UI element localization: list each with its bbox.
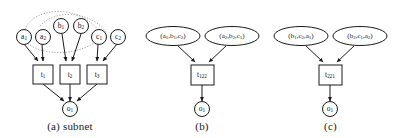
transition-node-t1[interactable]: t1: [33, 65, 53, 84]
transition-node-t221[interactable]: t221: [319, 65, 342, 85]
input-node-b2-sub: 2: [82, 24, 85, 30]
svg-text:(a1,b1,c2): (a1,b1,c2): [160, 32, 186, 40]
output-node-o1[interactable]: o1: [195, 102, 210, 117]
input-node-c1-sub: 1: [99, 35, 102, 41]
tuple-node-c-2[interactable]: (b2,c1,a2): [333, 27, 387, 46]
output-node-o1-sub: 1: [203, 107, 206, 113]
transition-node-t1-sub: 1: [43, 73, 46, 79]
output-node-o1-sub: 1: [71, 107, 74, 113]
input-node-c2[interactable]: c2: [111, 30, 126, 45]
input-node-a1-sub: 1: [24, 35, 27, 41]
panel-a-caption: (a) subnet: [0, 120, 140, 132]
input-node-a1[interactable]: a1: [17, 30, 32, 45]
transition-node-t221-sub: 221: [327, 73, 335, 79]
panel-c: (b1,c2,a1) (b2,c1,a2) t221 o1 (c): [266, 0, 395, 138]
panel-a-graph: a1 a2 b1 b2 c1 c2: [0, 0, 140, 138]
tuple-node-c-1[interactable]: (b1,c2,a1): [274, 27, 328, 46]
input-node-a2[interactable]: a2: [36, 30, 51, 45]
transition-node-t122-sub: 122: [199, 73, 207, 79]
tuple-node-b-1[interactable]: (a1,b1,c2): [146, 27, 200, 46]
svg-text:(b1,c2,a1): (b1,c2,a1): [288, 32, 314, 40]
panel-c-graph: (b1,c2,a1) (b2,c1,a2) t221 o1: [266, 0, 395, 138]
output-node-o1-sub: 1: [331, 107, 334, 113]
panel-b-graph: (a1,b1,c2) (a2,b2,c1) t122 o1: [138, 0, 266, 138]
svg-text:(b2,c1,a2): (b2,c1,a2): [347, 32, 373, 40]
panel-b: (a1,b1,c2) (a2,b2,c1) t122 o1 (b): [138, 0, 266, 138]
tuple-node-b-2[interactable]: (a2,b2,c1): [205, 27, 259, 46]
svg-text:(a2,b2,c1): (a2,b2,c1): [219, 32, 245, 40]
panel-b-caption: (b): [138, 120, 266, 132]
transition-node-t122[interactable]: t122: [191, 65, 214, 85]
input-node-b1-sub: 1: [62, 24, 65, 30]
transition-node-t2[interactable]: t2: [60, 65, 80, 84]
transition-node-t2-sub: 2: [70, 73, 73, 79]
transition-node-t3[interactable]: t3: [87, 65, 107, 84]
input-node-b1[interactable]: b1: [54, 19, 69, 34]
output-node-o1[interactable]: o1: [323, 102, 338, 117]
panel-subnet: a1 a2 b1 b2 c1 c2: [0, 0, 140, 138]
input-node-c1[interactable]: c1: [92, 30, 107, 45]
transition-node-t3-sub: 3: [97, 73, 100, 79]
output-node-o1[interactable]: o1: [63, 102, 78, 117]
input-node-c2-sub: 2: [118, 35, 121, 41]
figure-container: a1 a2 b1 b2 c1 c2: [0, 0, 395, 138]
panel-c-caption: (c): [266, 120, 395, 132]
input-node-a2-sub: 2: [43, 35, 46, 41]
input-node-b2[interactable]: b2: [74, 19, 89, 34]
